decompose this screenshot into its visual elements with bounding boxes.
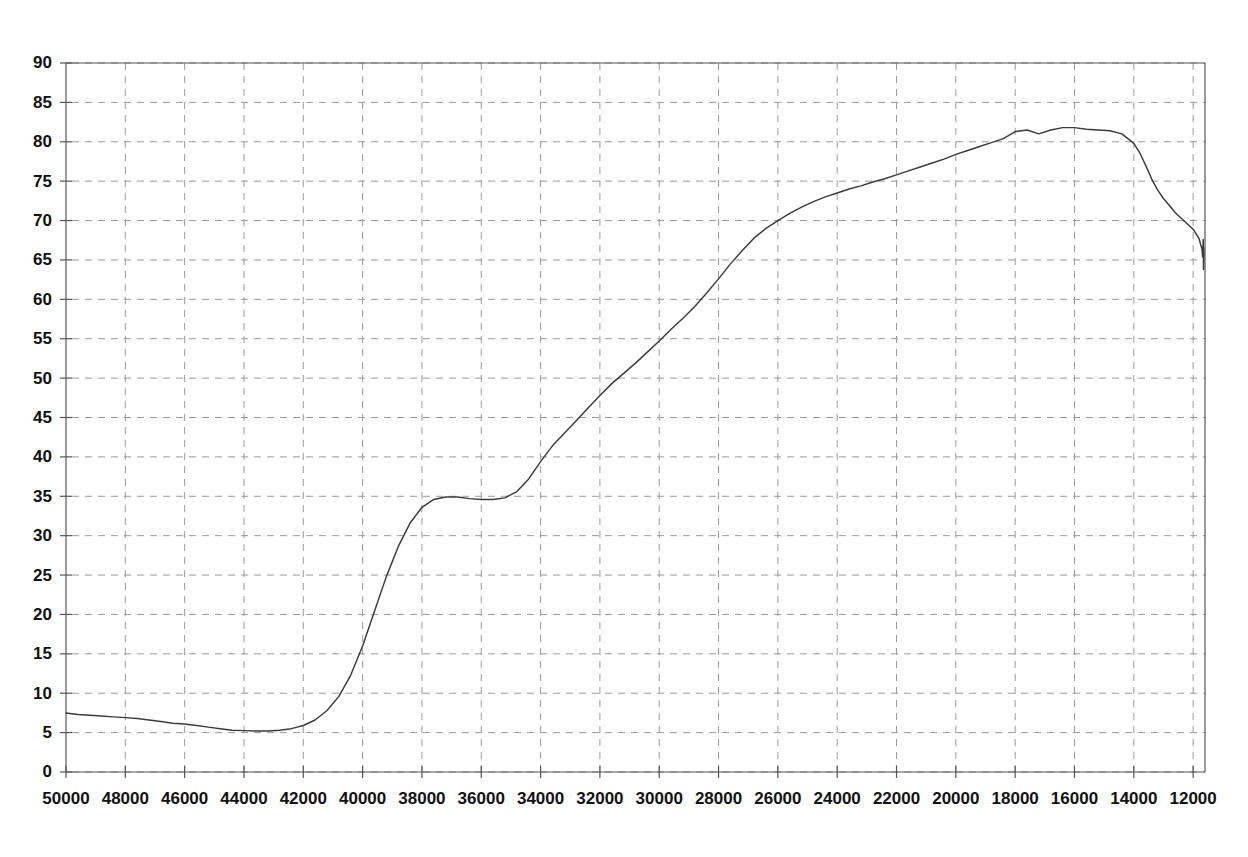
x-axis-tick-label: 38000	[398, 789, 445, 808]
y-axis-tick-label: 15	[33, 644, 52, 663]
x-axis-tick-label: 18000	[992, 789, 1039, 808]
y-axis-tick-label: 50	[33, 369, 52, 388]
y-axis-tick-label: 75	[33, 172, 52, 191]
y-axis-tick-label: 10	[33, 684, 52, 703]
x-axis-tick-label: 16000	[1051, 789, 1098, 808]
y-axis-tick-label: 90	[33, 53, 52, 72]
y-axis-tick-label: 0	[43, 762, 52, 781]
y-axis-tick-label: 45	[33, 408, 52, 427]
y-axis-tick-label: 70	[33, 211, 52, 230]
x-axis-tick-label: 30000	[636, 789, 683, 808]
x-axis-tick-label: 14000	[1110, 789, 1157, 808]
x-axis-tick-label: 48000	[102, 789, 149, 808]
x-axis-tick-label: 46000	[161, 789, 208, 808]
y-axis-tick-label: 5	[43, 723, 52, 742]
x-axis-tick-label: 20000	[932, 789, 979, 808]
x-axis-tick-label: 32000	[576, 789, 623, 808]
y-axis-tick-label: 85	[33, 93, 52, 112]
x-axis-tick-label: 44000	[220, 789, 267, 808]
chart-container: 051015202530354045505560657075808590 500…	[0, 0, 1248, 857]
x-axis-tick-label: 36000	[458, 789, 505, 808]
y-axis-tick-label: 60	[33, 290, 52, 309]
x-axis-tick-label: 28000	[695, 789, 742, 808]
x-axis-tick-label: 24000	[814, 789, 861, 808]
x-axis-tick-label: 42000	[280, 789, 327, 808]
x-axis-tick-label: 22000	[873, 789, 920, 808]
line-chart: 051015202530354045505560657075808590 500…	[0, 0, 1248, 857]
y-axis-tick-label: 65	[33, 250, 52, 269]
y-axis-tick-label: 25	[33, 566, 52, 585]
y-axis-tick-label: 30	[33, 526, 52, 545]
y-axis-tick-label: 40	[33, 447, 52, 466]
x-axis-tick-label: 40000	[339, 789, 386, 808]
y-axis-tick-label: 20	[33, 605, 52, 624]
y-axis-tick-label: 80	[33, 132, 52, 151]
x-axis-tick-label: 34000	[517, 789, 564, 808]
x-axis-tick-label: 50000	[42, 789, 89, 808]
x-axis-tick-label: 26000	[754, 789, 801, 808]
y-axis-tick-label: 55	[33, 329, 52, 348]
x-axis-tick-label: 12000	[1169, 789, 1216, 808]
y-axis-tick-label: 35	[33, 487, 52, 506]
